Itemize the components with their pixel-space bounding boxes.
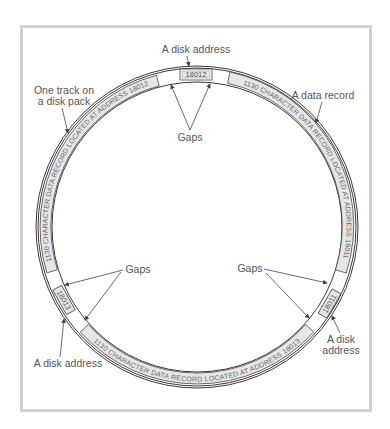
label-disk-address-top: A disk address xyxy=(162,43,230,55)
arrow-disk-address-top xyxy=(187,56,189,66)
disk-track-diagram: 1130 CHARACTER DATA RECORD LOCATED AT AD… xyxy=(0,0,390,429)
arrow-disk-address-bottom-left xyxy=(60,319,64,357)
label-gaps-left: Gaps xyxy=(125,263,150,275)
arrow-disk-address-right xyxy=(332,316,340,333)
arrow-gap-right-lower xyxy=(266,273,309,318)
arrow-data-record xyxy=(316,102,322,123)
label-one-track-line2: a disk pack xyxy=(38,95,91,107)
arrow-gap-left-upper xyxy=(65,270,123,285)
address-18012: 18012 xyxy=(186,70,207,79)
address-box-top: 18012 xyxy=(180,69,212,80)
arrow-one-track xyxy=(62,108,68,133)
svg-text:1130 CHARACTER DATA RECORD LOC: 1130 CHARACTER DATA RECORD LOCATED AT AD… xyxy=(93,337,302,383)
label-disk-address-right-line2: address xyxy=(322,344,359,356)
arrow-gap-top-left xyxy=(171,85,190,130)
data-record-right: 1130 CHARACTER DATA RECORD LOCATED AT AD… xyxy=(228,72,354,273)
label-gaps-right: Gaps xyxy=(237,262,262,274)
arrow-gap-top-right xyxy=(190,84,210,130)
address-box-right: 18011 xyxy=(318,289,341,318)
label-gaps-top: Gaps xyxy=(177,131,202,143)
label-data-record: A data record xyxy=(292,89,355,101)
label-disk-address-bottom-left: A disk address xyxy=(34,357,102,369)
arrow-gap-left-lower xyxy=(85,272,121,320)
data-record-bottom-text: 1130 CHARACTER DATA RECORD LOCATED AT AD… xyxy=(93,337,302,383)
data-record-bottom: 1130 CHARACTER DATA RECORD LOCATED AT AD… xyxy=(80,325,313,384)
